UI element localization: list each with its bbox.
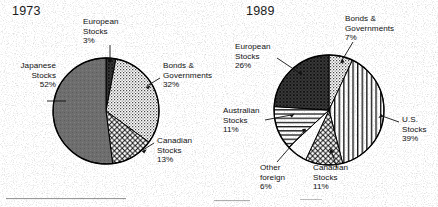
callout-line-1: Bonds & [163, 61, 212, 71]
callout-line-2: foreign [260, 173, 285, 183]
callout-canadian-stocks-1973: Canadian Stocks 13% [157, 136, 192, 165]
callout-line-3: 13% [157, 155, 192, 165]
callout-line-2: Governments [345, 24, 394, 34]
slice-japanese-stocks-1973[interactable] [53, 58, 113, 164]
callout-line-2: Stocks [402, 125, 427, 135]
callout-line-1: U.S. [402, 115, 427, 125]
callout-line-3: 6% [260, 182, 285, 192]
callout-japanese-stocks-1973: Japanese Stocks 52% [0, 61, 56, 90]
callout-line-3: 7% [345, 33, 394, 43]
callout-line-1: European [235, 42, 271, 52]
callout-line-1: Japanese [0, 61, 56, 71]
callout-line-3: 11% [223, 125, 260, 135]
callout-australian-stocks-1989: Australian Stocks 11% [223, 106, 260, 135]
callout-us-stocks-1989: U.S. Stocks 39% [402, 115, 427, 144]
callout-line-2: Stocks [0, 71, 56, 81]
chart-panel-1973: 1973 [0, 0, 219, 207]
callout-line-2: Stocks [83, 27, 119, 37]
callout-line-3: 39% [402, 134, 427, 144]
callout-line-2: Stocks [223, 116, 260, 126]
callout-line-2: Stocks [235, 52, 271, 62]
callout-european-stocks-1989: European Stocks 26% [235, 42, 271, 71]
callout-line-2: Stocks [157, 146, 192, 156]
callout-bonds-governments-1989: Bonds & Governments 7% [345, 14, 394, 43]
callout-line-3: 52% [0, 80, 56, 90]
callout-line-2: Governments [163, 71, 212, 81]
callout-line-3: 26% [235, 61, 271, 71]
callout-bonds-governments-1973: Bonds & Governments 32% [163, 61, 212, 90]
callout-line-3: 3% [83, 36, 119, 46]
callout-line-2: Stocks [313, 173, 348, 183]
callout-other-foreign-1989: Other foreign 6% [260, 163, 285, 192]
callout-line-1: Canadian [313, 163, 348, 173]
callout-line-1: Australian [223, 106, 260, 116]
slice-european-stocks-1989[interactable] [274, 55, 329, 110]
pie-chart-figure: 1973 [0, 0, 438, 207]
callout-line-1: Bonds & [345, 14, 394, 24]
callout-line-3: 32% [163, 80, 212, 90]
callout-line-3: 11% [313, 182, 348, 192]
callout-canadian-stocks-1989: Canadian Stocks 11% [313, 163, 348, 192]
callout-line-1: European [83, 17, 119, 27]
callout-european-stocks-1973: European Stocks 3% [83, 17, 119, 46]
callout-line-1: Other [260, 163, 285, 173]
callout-line-1: Canadian [157, 136, 192, 146]
chart-panel-1989: 1989 [219, 0, 438, 207]
